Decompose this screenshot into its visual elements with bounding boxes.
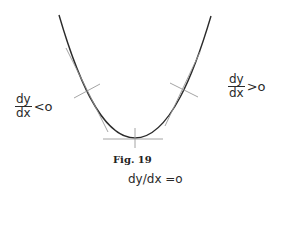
left-tangent-line: [66, 48, 108, 132]
right-denominator: dx: [229, 87, 244, 100]
bottom-derivative-label: dy/dx =o: [128, 172, 183, 186]
left-relation: <o: [34, 99, 53, 114]
right-relation: >o: [247, 79, 266, 94]
left-denominator: dx: [16, 107, 31, 120]
left-derivative-label: dy dx <o: [15, 93, 53, 120]
right-derivative-label: dy dx >o: [228, 73, 266, 100]
right-numerator: dy: [228, 73, 245, 87]
left-normal-mark: [74, 84, 100, 98]
left-numerator: dy: [15, 93, 32, 107]
left-derivative-fraction: dy dx: [15, 93, 32, 120]
right-derivative-fraction: dy dx: [228, 73, 245, 100]
figure-caption: Fig. 19: [113, 154, 152, 165]
